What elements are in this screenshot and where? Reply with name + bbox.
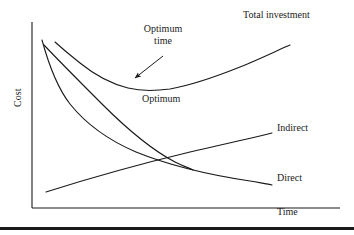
x-axis-label: Time [277,206,298,218]
annotation-optimum-time-line2: time [154,35,172,46]
series-optimum [44,45,193,170]
annotation-optimum-time-line1: Optimum [144,23,182,34]
series-direct [42,40,272,185]
bottom-divider [0,227,354,230]
series-label-total-investment: Total investment [243,9,310,21]
optimum-time-arrow [135,56,163,78]
annotation-optimum-time: Optimum time [134,23,192,46]
y-axis-label: Cost [12,78,24,118]
series-indirect [46,133,272,192]
annotation-optimum: Optimum [142,93,180,105]
series-label-indirect: Indirect [277,122,308,134]
chart-figure: Total investment Optimum time Optimum In… [0,0,354,235]
series-total-investment [55,42,290,90]
series-label-direct: Direct [277,172,302,184]
